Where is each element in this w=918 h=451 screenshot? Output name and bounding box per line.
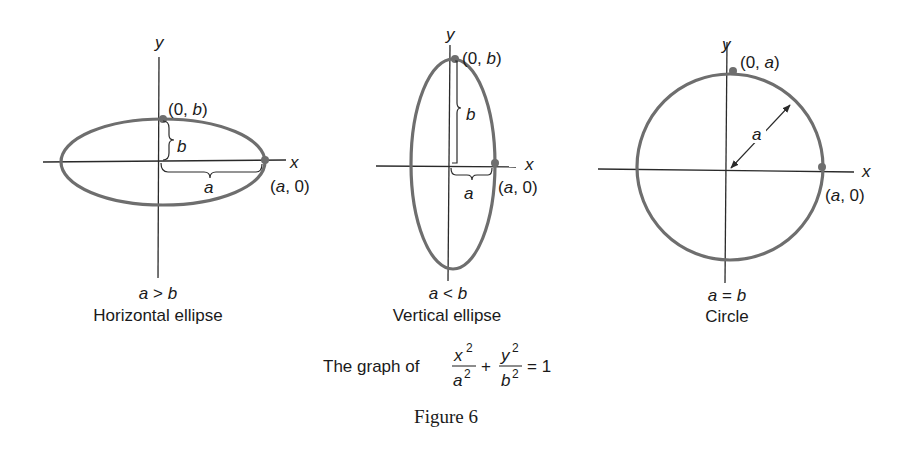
fraction2-num-exp: 2	[512, 341, 519, 355]
fraction2-numerator: y	[500, 346, 511, 365]
brace-b-label: b	[177, 137, 186, 156]
fraction1-den-exp: 2	[464, 367, 471, 381]
y-axis	[448, 45, 450, 281]
condition-label: a < b	[429, 284, 467, 303]
point-right	[818, 163, 826, 171]
brace-a	[161, 163, 262, 178]
brace-b	[163, 121, 174, 160]
point-top-label: (0, b)	[462, 49, 502, 68]
y-axis	[158, 57, 159, 278]
point-right-label: (a, 0)	[270, 177, 310, 196]
x-axis-label: x	[289, 153, 299, 172]
point-right-label: (a, 0)	[498, 178, 538, 197]
point-top-label: (0, b)	[168, 100, 208, 119]
panel-title: Horizontal ellipse	[93, 306, 222, 325]
equation-rhs: = 1	[527, 357, 551, 376]
brace-a	[451, 168, 492, 180]
y-axis-label: y	[154, 33, 165, 52]
equation: The graph of x 2 a 2 + y 2 b 2 = 1	[323, 341, 551, 390]
y-axis-label: y	[445, 25, 456, 44]
equation-prefix: The graph of	[323, 357, 420, 376]
panel-title: Circle	[705, 307, 748, 326]
x-axis-label: x	[524, 155, 534, 174]
panel-title: Vertical ellipse	[393, 306, 502, 325]
point-right	[491, 159, 499, 167]
point-right-label: (a, 0)	[825, 186, 865, 205]
y-axis	[725, 42, 727, 283]
x-axis-label: x	[861, 162, 871, 181]
point-top	[729, 67, 737, 75]
brace-a-label: a	[464, 184, 473, 203]
fraction1-denominator: a	[453, 371, 462, 390]
vertical-ellipse-curve	[411, 59, 495, 269]
panel-circle: a y x (0, a) (a, 0) a = b Circle	[598, 35, 871, 326]
radius-label: a	[752, 125, 761, 144]
fraction1-numerator: x	[453, 346, 463, 365]
plus-sign: +	[481, 357, 491, 376]
fraction2-den-exp: 2	[512, 367, 519, 381]
fraction1-num-exp: 2	[466, 341, 473, 355]
point-right	[261, 156, 269, 164]
brace-b-label: b	[466, 105, 475, 124]
point-top-label: (0, a)	[740, 53, 780, 72]
brace-a-label: a	[204, 178, 213, 197]
condition-label: a = b	[708, 286, 746, 305]
panel-vertical-ellipse: y x (0, b) (a, 0) b a a < b Vertical ell…	[376, 25, 538, 325]
condition-label: a > b	[139, 284, 177, 303]
fraction2-denominator: b	[501, 371, 510, 390]
circle-curve	[637, 74, 823, 260]
panel-horizontal-ellipse: y x (0, b) (a, 0) b a a > b Horizontal e…	[43, 33, 310, 325]
point-top	[451, 55, 459, 63]
figure-caption: Figure 6	[414, 406, 478, 427]
ellipse-figure: y x (0, b) (a, 0) b a a > b Horizontal e…	[0, 0, 918, 451]
y-axis-label: y	[721, 35, 732, 54]
brace-b	[452, 61, 461, 163]
